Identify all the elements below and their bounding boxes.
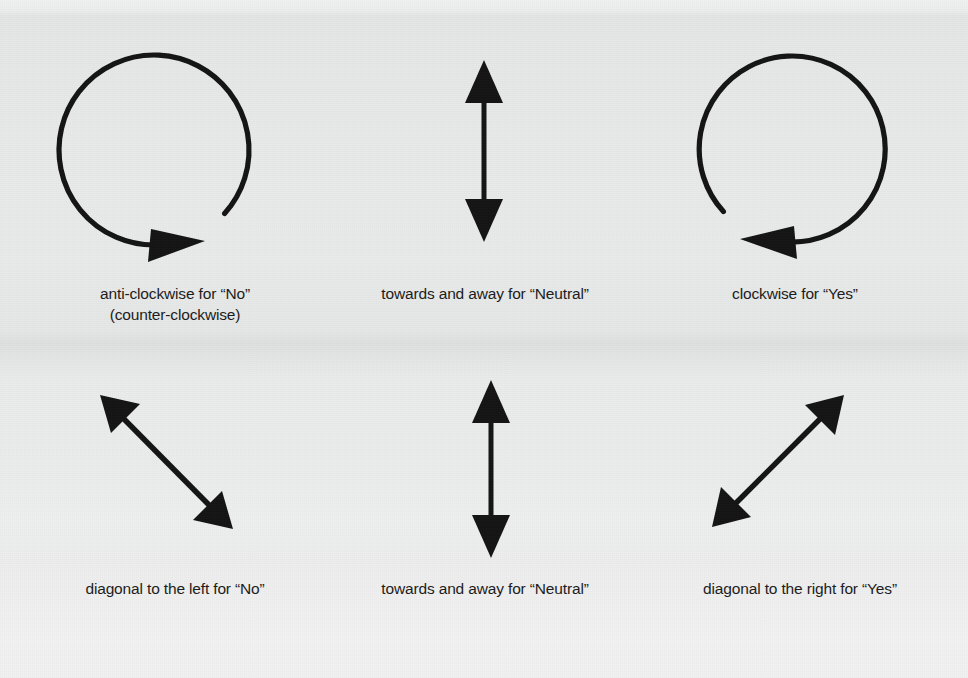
gesture-figures <box>0 0 968 678</box>
arrowhead-down-bottom <box>472 515 510 558</box>
diagram-canvas: anti-clockwise for “No” (counter-clockwi… <box>0 0 968 678</box>
arrowhead-down-top <box>465 199 503 242</box>
arrowhead-downleft <box>712 487 751 527</box>
caption-clockwise-yes: clockwise for “Yes” <box>645 283 945 304</box>
paper-grain-overlay <box>0 0 968 678</box>
diagonal-right-shaft <box>736 416 823 503</box>
caption-neutral-bottom: towards and away for “Neutral” <box>330 578 640 599</box>
caption-diagonal-left-no: diagonal to the left for “No” <box>20 578 330 599</box>
arrowhead-upright <box>805 395 844 435</box>
caption-anticlockwise-no: anti-clockwise for “No” (counter-clockwi… <box>20 283 330 325</box>
anticlockwise-circle-arrow-icon <box>59 55 249 262</box>
arrowhead-upleft <box>100 395 140 433</box>
clockwise-arc <box>699 56 885 242</box>
vertical-double-arrow-icon-bottom <box>472 380 510 558</box>
diagonal-left-double-arrow-icon <box>100 395 233 529</box>
anticlockwise-arc <box>59 55 249 245</box>
vertical-double-arrow-icon-top <box>465 60 503 242</box>
anticlockwise-arrowhead <box>148 229 205 262</box>
diagonal-left-shaft <box>121 416 212 508</box>
clockwise-circle-arrow-icon <box>699 56 885 259</box>
clockwise-arrowhead <box>740 226 797 259</box>
arrowhead-up-top <box>465 60 503 103</box>
arrowhead-downright <box>193 491 233 529</box>
arrowhead-up-bottom <box>472 380 510 423</box>
caption-diagonal-right-yes: diagonal to the right for “Yes” <box>645 578 955 599</box>
caption-neutral-top: towards and away for “Neutral” <box>330 283 640 304</box>
diagonal-right-double-arrow-icon <box>712 395 844 527</box>
